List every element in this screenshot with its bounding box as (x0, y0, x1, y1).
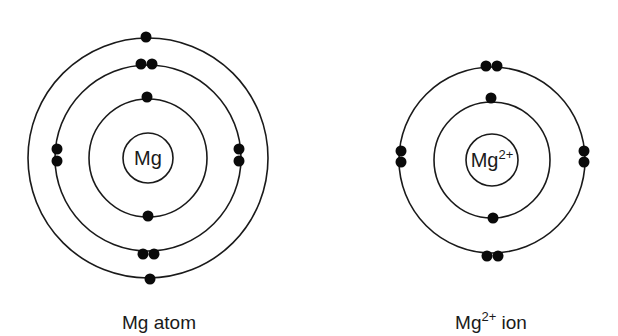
electron-dot (486, 93, 497, 104)
electron-dot (492, 61, 503, 72)
background (0, 0, 618, 336)
caption-mg-atom: Mg atom (122, 312, 196, 333)
electron-dot (141, 32, 152, 43)
electron-dot (138, 249, 149, 260)
electron-dot (579, 146, 590, 157)
electron-dot (149, 249, 160, 260)
caption-symbol: Mg (455, 312, 481, 333)
nucleus-symbol: Mg (471, 149, 499, 171)
electron-dot (147, 59, 158, 70)
electron-dot (488, 213, 499, 224)
electron-dot (52, 144, 63, 155)
electron-dot (143, 211, 154, 222)
electron-dot (396, 146, 407, 157)
electron-dot (579, 157, 590, 168)
nucleus-symbol: Mg (134, 147, 162, 169)
electron-dot (142, 92, 153, 103)
electron-dot (396, 157, 407, 168)
electron-shell-diagrams: Mg Mg atom Mg2+ Mg2+ ion (0, 0, 618, 336)
electron-dot (493, 251, 504, 262)
nucleus-charge: 2+ (498, 147, 513, 162)
electron-dot (482, 251, 493, 262)
caption-suffix: atom (148, 312, 196, 333)
electron-dot (52, 156, 63, 167)
caption-charge: 2+ (481, 309, 496, 324)
electron-dot (234, 144, 245, 155)
electron-dot (481, 61, 492, 72)
electron-dot (234, 156, 245, 167)
electron-dot (136, 59, 147, 70)
electron-dot (145, 274, 156, 285)
nucleus-label: Mg (134, 147, 162, 169)
caption-symbol: Mg (122, 312, 148, 333)
caption-suffix: ion (496, 312, 527, 333)
